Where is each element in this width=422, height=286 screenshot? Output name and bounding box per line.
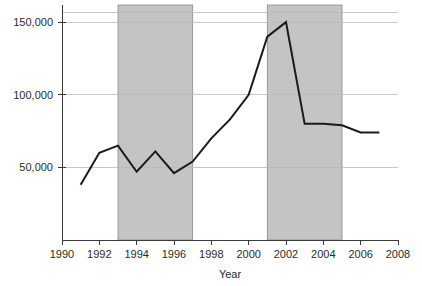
x-tick-label-4: 1998 [199,248,223,260]
x-tick-label-9: 2008 [386,248,410,260]
x-tick-label-5: 2000 [236,248,260,260]
x-axis-title: Year [219,268,242,280]
x-tick-label-3: 1996 [162,248,186,260]
x-tick-label-2: 1994 [124,248,148,260]
x-tick-label-1: 1992 [87,248,111,260]
y-tick-label-1: 100,000 [13,89,53,101]
x-tick-label-8: 2006 [348,248,372,260]
y-tick-label-2: 150,000 [13,16,53,28]
x-tick-label-6: 2002 [274,248,298,260]
x-tick-label-0: 1990 [50,248,74,260]
chart-container: 50,000100,000150,000 1990199219941996199… [0,0,422,286]
y-tick-label-0: 50,000 [19,161,53,173]
shaded-region-1 [118,5,193,240]
x-tick-label-7: 2004 [311,248,335,260]
line-chart: 50,000100,000150,000 1990199219941996199… [0,0,422,286]
